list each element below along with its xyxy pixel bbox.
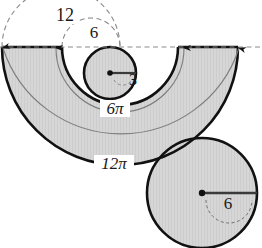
- label-outer-diameter: 12: [56, 5, 74, 25]
- label-inner-diameter: 6: [90, 23, 99, 42]
- label-inner-arc-length: 6π: [106, 99, 124, 118]
- large-circle-center-dot: [199, 190, 205, 196]
- label-outer-arc-length: 12π: [101, 154, 127, 173]
- small-circle-center-dot: [107, 70, 113, 76]
- label-small-circle-radius: 3: [129, 71, 137, 88]
- figure-container: 12 6 3 6π 12π 6: [0, 0, 262, 248]
- geometry-figure: 12 6 3 6π 12π 6: [0, 0, 262, 248]
- label-large-circle-radius: 6: [224, 194, 233, 213]
